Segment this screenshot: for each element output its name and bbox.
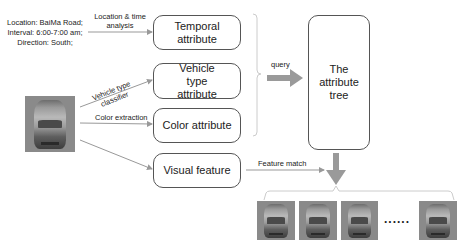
result-vehicle-image-3	[341, 201, 378, 240]
edge-label-feature-match: Feature match	[258, 159, 306, 168]
query-conditions: Location: BaiMa Road; Interval: 6:00-7:0…	[2, 18, 88, 48]
attribute-tree-box: The attribute tree	[308, 15, 370, 150]
location-text: Location: BaiMa Road;	[2, 18, 88, 28]
result-vehicle-image-2	[299, 201, 337, 240]
results-ellipsis: ......	[384, 212, 410, 226]
interval-text: Interval: 6:00-7:00 am;	[2, 28, 88, 38]
edge-label-query: query	[271, 60, 290, 69]
edge-label-location-time: Location & time analysis	[90, 12, 150, 30]
result-vehicle-image-4	[419, 201, 457, 240]
temporal-attribute-box: Temporal attribute	[153, 15, 241, 50]
query-vehicle-image	[25, 96, 75, 152]
visual-feature-box: Visual feature	[153, 153, 241, 188]
color-attribute-box: Color attribute	[153, 108, 241, 143]
edge-label-color-extraction: Color extraction	[95, 113, 148, 122]
direction-text: Direction: South;	[2, 38, 88, 48]
vehicle-type-attribute-box: Vehicle type attribute	[153, 63, 241, 99]
result-vehicle-image-1	[257, 201, 295, 240]
